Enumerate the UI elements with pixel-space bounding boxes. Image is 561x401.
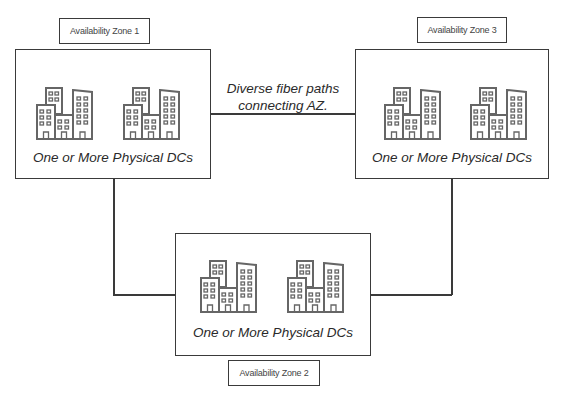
availability-zone-1: One or More Physical DCs [15, 49, 211, 179]
fiber-note-line2: connecting AZ. [210, 97, 356, 114]
building-cluster-icon [199, 259, 259, 313]
fiber-note-line1: Diverse fiber paths [210, 80, 356, 97]
building-cluster-icon [286, 259, 346, 313]
fiber-link-az1-az2-horizontal [113, 294, 176, 296]
fiber-note: Diverse fiber paths connecting AZ. [210, 80, 356, 114]
az1-caption: One or More Physical DCs [16, 150, 210, 165]
az1-label: Availability Zone 1 [59, 18, 150, 44]
fiber-link-az3-az2-horizontal [369, 294, 452, 296]
building-cluster-icon [35, 86, 95, 140]
az3-label: Availability Zone 3 [417, 17, 507, 43]
az3-caption: One or More Physical DCs [356, 150, 548, 165]
az2-caption: One or More Physical DCs [176, 325, 370, 340]
availability-zone-2: One or More Physical DCs [175, 233, 371, 356]
building-cluster-icon [383, 86, 443, 140]
fiber-link-az1-az2-vertical [113, 178, 115, 295]
building-cluster-icon [469, 86, 529, 140]
az2-label: Availability Zone 2 [228, 360, 320, 386]
building-cluster-icon [122, 86, 182, 140]
fiber-link-az3-az2-vertical [451, 178, 453, 295]
availability-zone-3: One or More Physical DCs [355, 49, 549, 179]
